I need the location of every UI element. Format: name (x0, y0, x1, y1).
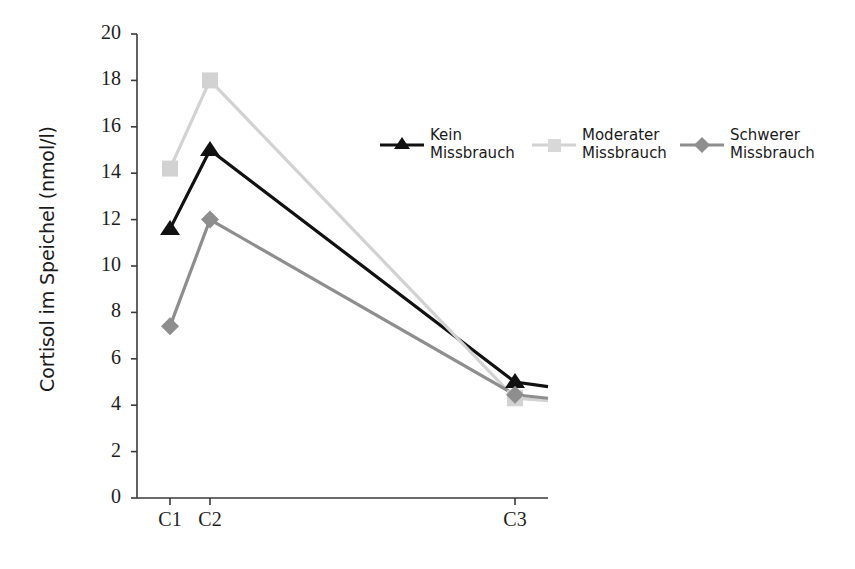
legend-label-moderater-missbrauch: ModeraterMissbrauch (582, 126, 667, 162)
y-tick-label: 10 (81, 253, 121, 276)
y-tick-label: 16 (81, 114, 121, 137)
legend-label-line1: Schwerer (730, 126, 800, 144)
y-tick-label: 6 (81, 346, 121, 369)
y-tick-label: 8 (81, 299, 121, 322)
data-series (160, 72, 548, 406)
y-tick-label: 20 (81, 21, 121, 44)
axes (131, 34, 548, 505)
legend-marker-triangle-icon (378, 132, 426, 156)
legend-marker-diamond-icon (678, 132, 726, 156)
y-tick-label: 0 (81, 485, 121, 508)
legend-label-line2: Missbrauch (430, 144, 515, 162)
legend-entry-moderater-missbrauch: ModeraterMissbrauch (530, 126, 678, 162)
y-tick-label: 14 (81, 160, 121, 183)
y-tick-label: 12 (81, 207, 121, 230)
plot-area (0, 0, 855, 569)
y-tick-label: 4 (81, 392, 121, 415)
chart-legend: KeinMissbrauch ModeraterMissbrauch Schwe… (378, 126, 838, 184)
legend-label-line2: Missbrauch (730, 144, 815, 162)
chart-figure: Cortisol im Speichel (nmol/l) 0246810121… (0, 0, 855, 569)
legend-label-schwerer-missbrauch: SchwererMissbrauch (730, 126, 815, 162)
legend-marker-square-icon (530, 132, 578, 156)
legend-entry-kein-missbrauch: KeinMissbrauch (378, 126, 530, 162)
y-tick-label: 18 (81, 67, 121, 90)
legend-label-line2: Missbrauch (582, 144, 667, 162)
y-tick-label: 2 (81, 439, 121, 462)
legend-label-kein-missbrauch: KeinMissbrauch (430, 126, 515, 162)
x-tick-label: C2 (180, 508, 240, 531)
legend-label-line1: Moderater (582, 126, 660, 144)
legend-label-line1: Kein (430, 126, 462, 144)
legend-entry-schwerer-missbrauch: SchwererMissbrauch (678, 126, 838, 162)
x-tick-label: C3 (485, 508, 545, 531)
